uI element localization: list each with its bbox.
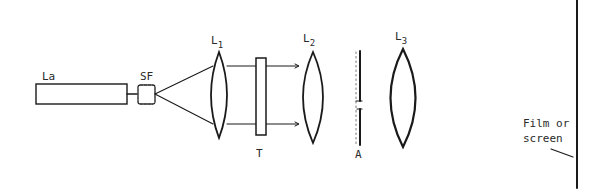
cone-ray-top (155, 66, 213, 94)
screen-label-line1: Film or (523, 117, 570, 130)
spatial-filter-label: SF (140, 70, 153, 83)
lens3-shape (391, 49, 416, 147)
transparency-plate (256, 58, 266, 135)
lens1-label: L1 (211, 34, 223, 50)
lens3-label-sub: 3 (402, 36, 407, 46)
lens1-shape (211, 52, 227, 138)
lens2-shape (303, 52, 323, 143)
spatial-filter-box (138, 85, 155, 104)
optical-diagram: La SF L1 T L2 A L3 Film or screen (0, 0, 610, 196)
laser-body (36, 84, 127, 104)
screen-pointer-line (551, 149, 573, 157)
lens2-label-sub: 2 (310, 38, 315, 48)
lens2-label: L2 (303, 32, 315, 48)
cone-ray-bottom (155, 94, 213, 124)
lens3-label: L3 (395, 30, 407, 46)
screen-label-line2: screen (523, 132, 563, 145)
lens1-label-sub: 1 (218, 40, 223, 50)
aperture-label: A (355, 148, 362, 161)
laser-label: La (42, 70, 55, 83)
transparency-label: T (256, 147, 263, 160)
